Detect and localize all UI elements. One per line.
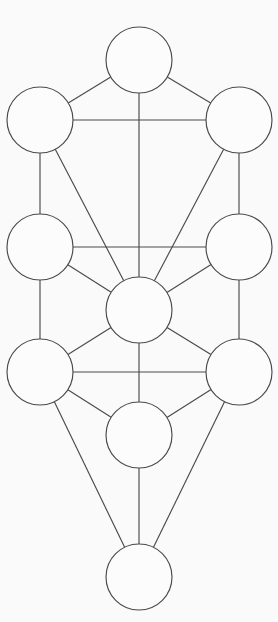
node-middle-right[interactable] — [206, 214, 272, 280]
node-middle-left[interactable] — [7, 214, 73, 280]
node-upper-left[interactable] — [7, 87, 73, 153]
diagram-canvas — [0, 0, 278, 622]
path-center-to-lower-right — [167, 327, 211, 354]
path-middle-left-to-center — [68, 265, 111, 293]
path-lower-right-to-lower-center — [167, 390, 211, 418]
node-top-center[interactable] — [106, 27, 172, 93]
node-center-circle[interactable] — [106, 277, 172, 343]
path-center-to-lower-left — [68, 328, 111, 355]
path-middle-right-to-center — [167, 265, 211, 293]
node-lower-left-circle[interactable] — [7, 339, 73, 405]
node-lower-right-circle[interactable] — [206, 339, 272, 405]
node-lower-center[interactable] — [106, 402, 172, 468]
node-upper-right[interactable] — [206, 87, 272, 153]
node-lower-left[interactable] — [7, 339, 73, 405]
node-middle-right-circle[interactable] — [206, 214, 272, 280]
tree-of-life-diagram — [0, 0, 278, 622]
path-top-to-upper-left — [68, 77, 111, 103]
node-top-center-circle[interactable] — [106, 27, 172, 93]
node-middle-left-circle[interactable] — [7, 214, 73, 280]
path-top-to-upper-right — [167, 77, 210, 103]
node-bottom-center-circle[interactable] — [106, 544, 172, 610]
node-lower-center-circle[interactable] — [106, 402, 172, 468]
path-lower-left-to-lower-center — [68, 390, 111, 418]
node-upper-left-circle[interactable] — [7, 87, 73, 153]
node-lower-right[interactable] — [206, 339, 272, 405]
node-center[interactable] — [106, 277, 172, 343]
node-upper-right-circle[interactable] — [206, 87, 272, 153]
node-bottom-center[interactable] — [106, 544, 172, 610]
